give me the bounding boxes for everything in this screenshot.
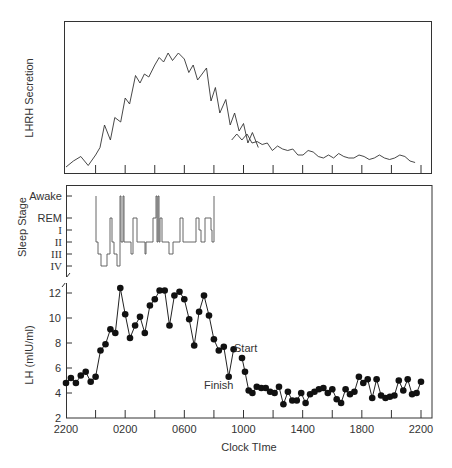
lh-data-point: [356, 374, 363, 381]
svg-text:1000: 1000: [231, 423, 255, 435]
lh-data-point: [294, 397, 301, 404]
lh-data-point: [413, 390, 420, 397]
lh-data-point: [161, 287, 168, 294]
lh-data-point: [242, 369, 249, 376]
lh-data-point: [201, 292, 208, 299]
lh-data-point: [285, 389, 292, 396]
lh-data-point: [196, 309, 203, 316]
sleep-stage-axis: AwakeREMIIIIIIIV: [29, 190, 72, 272]
lh-ylabel: LH (mIU/ml): [23, 325, 35, 384]
lh-data-point: [391, 392, 398, 399]
lh-data-point: [329, 386, 336, 393]
lh-data-point: [186, 316, 193, 323]
lh-data-point: [63, 380, 70, 387]
lh-data-point: [396, 377, 403, 384]
lh-data-point: [302, 400, 309, 407]
svg-text:II: II: [55, 236, 63, 248]
lh-data-point: [373, 376, 380, 383]
lh-data-point: [176, 289, 183, 296]
lh-data-point: [181, 296, 188, 303]
lh-y-axis: 24681012: [49, 287, 72, 424]
svg-text:I: I: [58, 224, 62, 236]
lh-data-point: [147, 302, 154, 309]
lh-data-point: [191, 342, 198, 349]
svg-text:IV: IV: [50, 260, 62, 272]
chart-figure: LHRH Secretion AwakeREMIIIIIIIV Sleep St…: [0, 0, 452, 468]
lh-data-point: [221, 344, 228, 351]
svg-text:12: 12: [49, 287, 61, 299]
lh-data-point: [122, 311, 129, 318]
svg-text:1400: 1400: [290, 423, 314, 435]
lh-data-point: [166, 322, 173, 329]
lhrh-x-ticks: [96, 165, 421, 173]
svg-text:2200: 2200: [409, 423, 433, 435]
lh-data-point: [249, 390, 256, 397]
sleep-stage-ylabel: Sleep Stage: [16, 197, 28, 257]
svg-text:4: 4: [55, 387, 61, 399]
lh-data-point: [280, 401, 287, 408]
lh-data-point: [400, 387, 407, 394]
svg-text:REM: REM: [38, 212, 62, 224]
lh-data-point: [102, 341, 109, 348]
svg-text:Awake: Awake: [29, 190, 62, 202]
lhrh-ylabel: LHRH Secretion: [23, 58, 35, 137]
lh-data-point: [87, 379, 94, 386]
lh-data-point: [369, 395, 376, 402]
lh-data-point: [73, 380, 80, 387]
start-annotation: Start: [234, 342, 257, 354]
svg-text:1800: 1800: [350, 423, 374, 435]
lh-data-point: [142, 330, 149, 337]
lh-data-point: [127, 335, 134, 342]
svg-text:10: 10: [49, 312, 61, 324]
svg-text:0600: 0600: [172, 423, 196, 435]
svg-text:6: 6: [55, 362, 61, 374]
lh-data-point: [68, 375, 75, 382]
lh-data-point: [239, 355, 246, 362]
lh-data-point: [271, 390, 278, 397]
finish-annotation: Finish: [204, 379, 233, 391]
svg-text:0200: 0200: [113, 423, 137, 435]
lhrh-secretion-line-continued: [232, 134, 415, 163]
lh-data-point: [298, 390, 305, 397]
svg-text:2200: 2200: [54, 423, 78, 435]
svg-text:8: 8: [55, 337, 61, 349]
lh-data-point: [364, 376, 371, 383]
lh-data-point: [97, 347, 104, 354]
lh-data-point: [418, 379, 425, 386]
lh-data-point: [320, 385, 327, 392]
lh-data-point: [112, 330, 119, 337]
lhrh-secretion-line: [66, 53, 258, 167]
svg-text:III: III: [51, 248, 62, 260]
lh-data-point: [92, 374, 99, 381]
clock-time-x-axis: 2200020006001000140018002200: [54, 410, 433, 435]
x-axis-label: Clock TIme: [221, 441, 276, 453]
lh-data-point: [132, 322, 139, 329]
lh-data-point: [117, 285, 124, 292]
lh-data-point: [82, 369, 89, 376]
lhrh-panel-frame: [65, 22, 432, 174]
lh-data-point: [137, 314, 144, 321]
lh-data-point: [211, 336, 218, 343]
hypnogram-line: [96, 196, 214, 266]
lh-data-point: [276, 384, 283, 391]
lh-data-point: [206, 312, 213, 319]
lh-data-point: [152, 296, 159, 303]
lh-data-point: [351, 389, 358, 396]
lh-data-point: [342, 386, 349, 393]
lh-data-point: [338, 400, 345, 407]
lh-data-point: [404, 376, 411, 383]
